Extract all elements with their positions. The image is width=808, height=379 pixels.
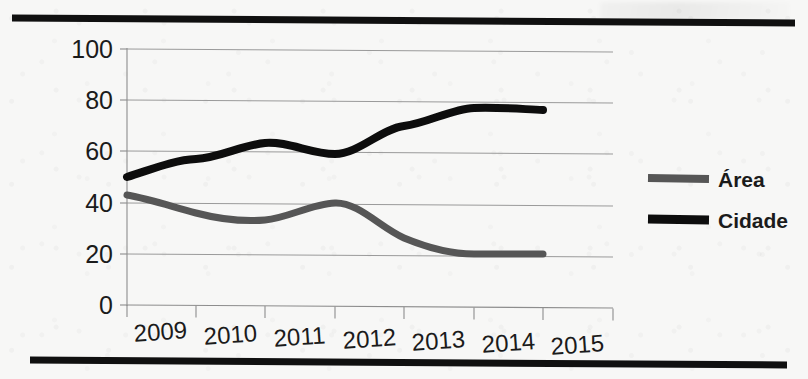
y-tick-label-40: 40 — [85, 189, 113, 217]
line-chart-figure: 100 80 60 40 20 0 2009 2010 2011 2012 20… — [0, 0, 808, 379]
y-tick-label-0: 0 — [99, 291, 113, 319]
legend-label-area: Área — [718, 168, 765, 191]
x-tick-label-2014: 2014 — [481, 327, 536, 358]
y-tick-label-100: 100 — [71, 35, 113, 63]
x-tick-label-2015: 2015 — [550, 329, 605, 360]
gridline-40 — [127, 203, 613, 206]
top-rule-bar — [12, 15, 795, 27]
gridline-100 — [127, 49, 613, 52]
x-tick-label-2012: 2012 — [342, 323, 397, 354]
legend-label-cidade: Cidade — [718, 209, 788, 232]
x-axis-tick-labels: 2009 2010 2011 2012 2013 2014 2015 — [133, 316, 605, 360]
gridline-80 — [127, 100, 613, 103]
series-line-cidade — [127, 108, 543, 177]
x-tick-label-2009: 2009 — [133, 316, 188, 347]
y-tick-label-20: 20 — [85, 240, 113, 268]
y-tick-label-80: 80 — [85, 86, 113, 114]
x-axis-line — [127, 305, 613, 308]
bottom-rule-bar — [30, 357, 787, 369]
legend-swatch-cidade — [648, 219, 709, 220]
x-tick-label-2010: 2010 — [203, 319, 258, 350]
legend-swatch-area — [648, 178, 709, 179]
y-axis-tick-labels: 100 80 60 40 20 0 — [71, 35, 113, 319]
gridline-60 — [127, 151, 613, 154]
chart-legend: Área Cidade — [648, 168, 788, 232]
y-gridlines — [127, 49, 613, 257]
x-tick-label-2013: 2013 — [411, 325, 466, 356]
y-tick-label-60: 60 — [85, 137, 113, 165]
x-tick-label-2011: 2011 — [273, 321, 326, 352]
